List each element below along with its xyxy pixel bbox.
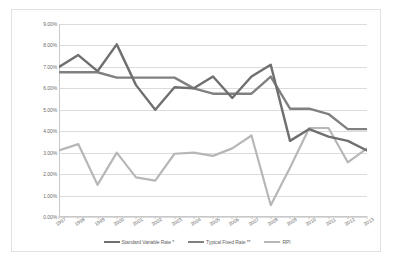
legend-label: RPI [282, 239, 290, 245]
y-axis-tick-label: 3.00% [23, 150, 57, 156]
legend-label: Typical Fixed Rate ** [206, 239, 250, 245]
y-axis-tick-label: 7.00% [23, 64, 57, 70]
legend-item[interactable]: RPI [264, 239, 290, 245]
y-axis-tick-label: 8.00% [23, 42, 57, 48]
series-line [59, 72, 367, 129]
legend-item[interactable]: Typical Fixed Rate ** [188, 239, 250, 245]
x-axis: 1997199819992000200120022003200420052006… [59, 219, 367, 233]
chart-legend: Standard Variable Rate *Typical Fixed Ra… [12, 239, 382, 245]
y-axis-tick-label: 0.00% [23, 214, 57, 220]
legend-item[interactable]: Standard Variable Rate * [104, 239, 175, 245]
y-axis-tick-label: 2.00% [23, 171, 57, 177]
series-line [59, 44, 367, 150]
legend-swatch-icon [264, 241, 280, 243]
plot-wrapper: 9.00%8.00%7.00%6.00%5.00%4.00%3.00%2.00%… [12, 10, 382, 253]
y-axis-tick-label: 4.00% [23, 128, 57, 134]
chart-container: 9.00%8.00%7.00%6.00%5.00%4.00%3.00%2.00%… [11, 9, 381, 252]
y-axis-tick-label: 9.00% [23, 21, 57, 27]
series-lines [59, 24, 367, 217]
y-axis-tick-label: 6.00% [23, 85, 57, 91]
legend-swatch-icon [188, 241, 204, 243]
y-axis: 9.00%8.00%7.00%6.00%5.00%4.00%3.00%2.00%… [23, 24, 57, 217]
series-line [59, 128, 367, 205]
y-axis-tick-label: 1.00% [23, 193, 57, 199]
legend-swatch-icon [104, 241, 120, 243]
legend-label: Standard Variable Rate * [122, 239, 175, 245]
y-axis-tick-label: 5.00% [23, 107, 57, 113]
plot-area [59, 24, 367, 217]
